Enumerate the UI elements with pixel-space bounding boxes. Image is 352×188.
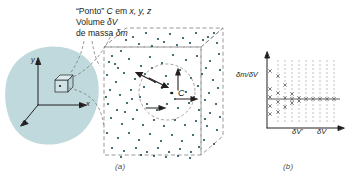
magnified-point-label: C	[178, 88, 185, 98]
graph-x-axis-label: δV	[317, 127, 326, 136]
graph-axis-x-arrow	[338, 126, 344, 130]
annotation-volume-prefix: Volume	[76, 17, 107, 27]
molecule-dots	[105, 32, 221, 159]
continuum-density-figure	[0, 0, 352, 188]
annotation-point-c-coords: x, y, z	[130, 6, 152, 16]
graph-y-axis-label: δm/δV	[236, 70, 258, 79]
annotation-point-c-prefix: “Ponto”	[76, 6, 107, 16]
annotation-point-c-mid: em	[113, 6, 130, 16]
annotation-point-c: “Ponto” C em x, y, z	[76, 6, 151, 17]
annotation-mass-prefix: de massa	[76, 28, 116, 38]
point-c-dot	[59, 85, 61, 87]
body-blob-shape	[5, 47, 99, 145]
small-cube-front-face	[55, 80, 68, 92]
annotation-mass-symbol: δm	[116, 28, 128, 38]
magnified-cube	[104, 28, 223, 155]
caption-a: (a)	[115, 162, 125, 171]
graph-data-marks	[269, 70, 336, 116]
annotation-volume: Volume δV	[76, 17, 118, 28]
cube-right-face	[201, 28, 223, 155]
velocity-arrow-upleft-head	[136, 73, 143, 78]
magnified-point-c-dot	[171, 92, 174, 95]
axis-label-y: y	[31, 55, 35, 64]
small-volume-element-cube	[55, 75, 73, 92]
axis-label-x: x	[86, 99, 90, 108]
density-limit-graph	[265, 52, 344, 130]
graph-axis-y-arrow	[265, 52, 269, 58]
body-blob-group	[5, 47, 99, 145]
caption-b: (b)	[283, 162, 293, 171]
annotation-volume-symbol: δV	[107, 17, 118, 27]
velocity-arrow-left-head	[159, 106, 165, 110]
caption-pointer-right	[92, 41, 100, 66]
graph-gridlines	[278, 60, 334, 124]
graph-x-axis-label-secondary: δV'	[292, 127, 303, 136]
annotation-mass: de massa δm	[76, 28, 128, 39]
velocity-arrow-right-head	[191, 97, 197, 101]
